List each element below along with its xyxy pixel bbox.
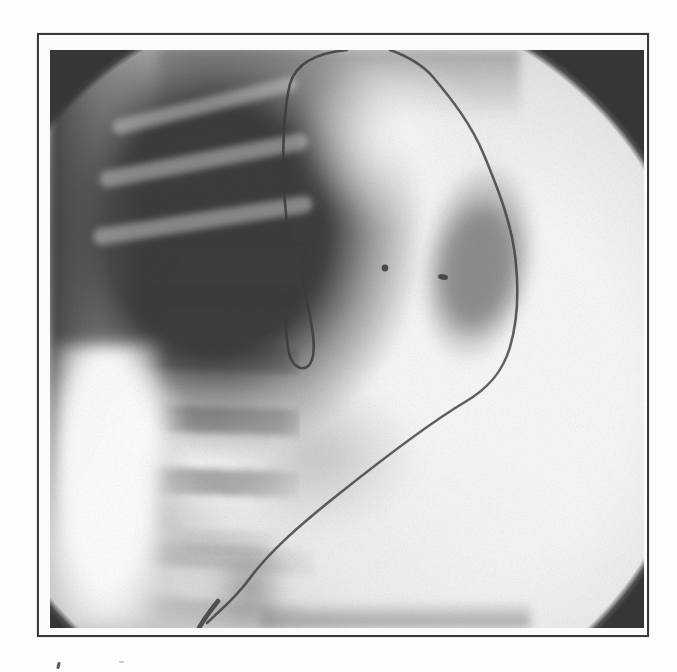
film-grain-texture	[50, 50, 644, 628]
caption-remnant-speck-faint	[119, 661, 124, 663]
scanned-page	[0, 0, 677, 672]
radiograph-image	[50, 50, 644, 628]
caption-remnant-speck	[56, 662, 61, 670]
figure-frame	[37, 33, 649, 637]
